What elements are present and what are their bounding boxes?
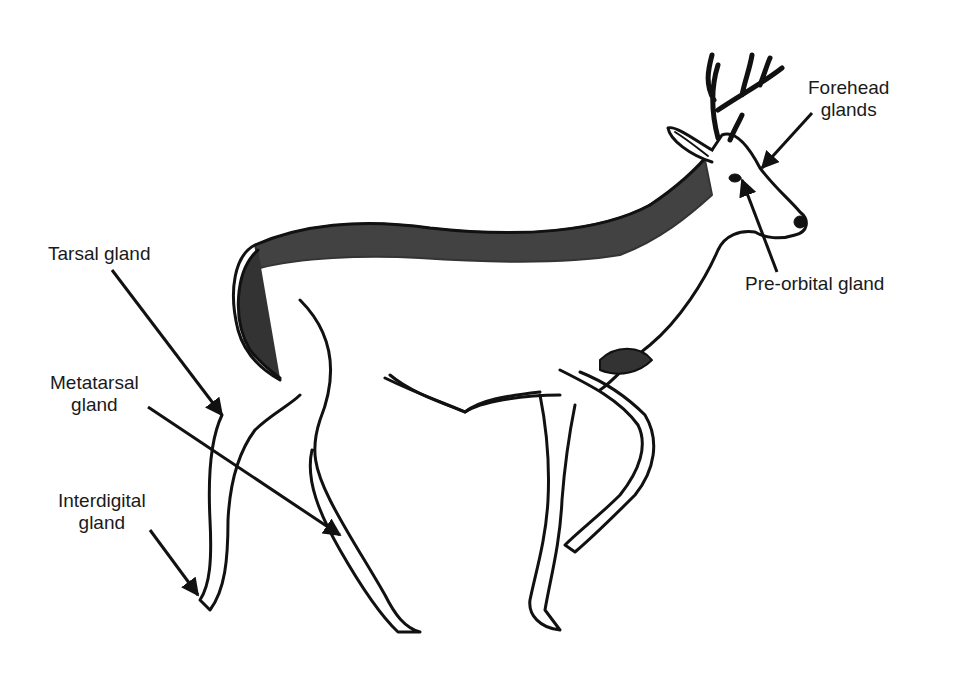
deer-belly [390,375,540,412]
arrow-interdigital [150,530,198,595]
deer-tail [238,250,280,378]
label-interdigital-gland: Interdigital gland [58,490,146,534]
label-forehead-glands: Forehead glands [808,77,889,121]
label-preorbital-gland: Pre-orbital gland [745,273,884,295]
deer-shoulder-shading [600,349,652,374]
deer-hind-leg-far [200,395,300,610]
deer-hind-leg-near [300,300,420,632]
deer-antlers [708,55,782,140]
deer-back-shading [255,160,712,268]
arrow-preorbital [742,180,777,272]
deer-front-leg-near [560,370,654,552]
label-tarsal-gland: Tarsal gland [48,243,150,265]
deer-eye [729,174,741,182]
label-metatarsal-gland: Metatarsal gland [50,372,139,416]
arrow-forehead [762,113,812,168]
deer-nose [794,216,806,228]
deer-front-leg-far [530,395,575,630]
deer-gland-diagram: Tarsal gland Metatarsal gland Interdigit… [0,0,963,677]
